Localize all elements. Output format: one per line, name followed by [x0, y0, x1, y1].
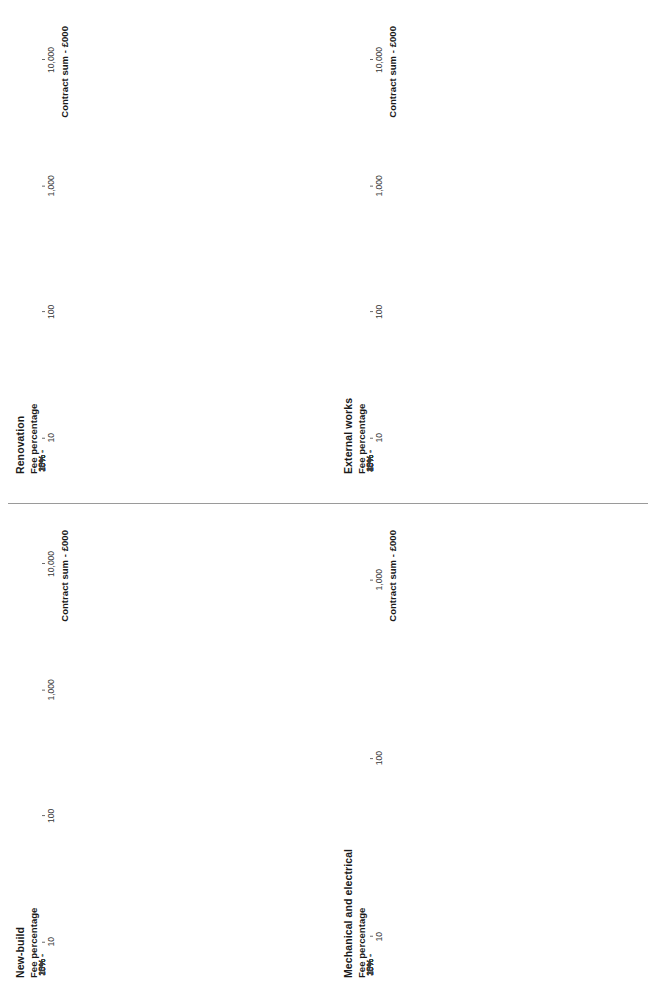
x-tick-label: 10 — [370, 932, 384, 941]
panel-grid: New-build Fee percentage 0%-5%-10%-15%-2… — [0, 0, 656, 1008]
x-tick-label: 10 — [42, 433, 56, 442]
x-tick-label: 10,000 — [370, 47, 384, 73]
x-tick-label: 1,000 — [42, 175, 56, 196]
y-axis-label: Fee percentage — [356, 22, 367, 480]
x-tick-label: 100 — [370, 751, 384, 765]
x-axis-label: Contract sum - £000 — [59, 22, 70, 480]
panel-title: New-build — [14, 526, 26, 984]
x-axis-label: Contract sum - £000 — [59, 526, 70, 984]
x-axis: 101001,00010,000 — [370, 22, 386, 450]
y-axis-label: Fee percentage — [356, 526, 367, 984]
panel-renovation: Renovation Fee percentage 0%-5%-10%-15%-… — [0, 0, 328, 504]
poster-sheet: New-build Fee percentage 0%-5%-10%-15%-2… — [0, 0, 656, 1008]
y-tick-label: 35%- — [37, 450, 47, 472]
x-tick-label: 100 — [370, 305, 384, 319]
x-axis: 101001,000 — [370, 526, 386, 954]
panel-external-works: External works Fee percentage 0%-5%-10%-… — [328, 0, 656, 504]
x-axis-label: Contract sum - £000 — [387, 526, 398, 984]
x-tick-label: 100 — [42, 305, 56, 319]
x-tick-label: 1,000 — [42, 679, 56, 700]
x-tick-label: 10,000 — [42, 47, 56, 73]
x-tick-label: 10 — [370, 433, 384, 442]
panel-title: Renovation — [14, 22, 26, 480]
y-axis-label: Fee percentage — [28, 526, 39, 984]
x-tick-label: 100 — [42, 809, 56, 823]
y-tick-label: 35%- — [365, 954, 375, 976]
y-tick-label: 30%- — [37, 954, 47, 976]
panel-new-build: New-build Fee percentage 0%-5%-10%-15%-2… — [0, 504, 328, 1008]
panel-title: External works — [342, 22, 354, 480]
x-axis: 101001,00010,000 — [42, 22, 58, 450]
x-tick-label: 1,000 — [370, 175, 384, 196]
x-tick-label: 10,000 — [42, 551, 56, 577]
page-divider-vertical — [8, 503, 648, 504]
x-tick-label: 1,000 — [370, 569, 384, 590]
y-axis-label: Fee percentage — [28, 22, 39, 480]
y-tick-label: 45%- — [365, 450, 375, 472]
panel-title: Mechanical and electrical — [342, 526, 354, 984]
x-tick-label: 10 — [42, 937, 56, 946]
panel-mechanical-and-electrical: Mechanical and electrical Fee percentage… — [328, 504, 656, 1008]
x-axis: 101001,00010,000 — [42, 526, 58, 954]
x-axis-label: Contract sum - £000 — [387, 22, 398, 480]
